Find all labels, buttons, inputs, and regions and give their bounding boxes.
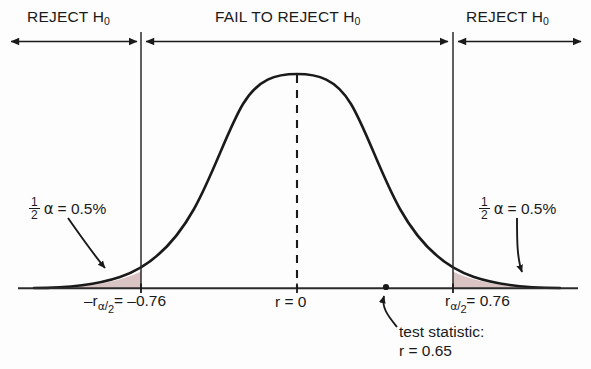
distribution-diagram [0,0,591,369]
left-alpha-half-fraction: 1 2 [29,196,40,221]
region-label-fail-to-reject: FAIL TO REJECT H0 [215,8,361,27]
right-alpha-numerator: 1 [479,196,490,208]
right-alpha-area-label: 1 2 α = 0.5% [479,196,556,221]
left-critical-value-number: = –0.76 [114,292,166,309]
left-alpha-value: = 0.5% [58,200,107,218]
region-label-left-reject-text: REJECT H [27,8,104,25]
figure-canvas: REJECT H0 FAIL TO REJECT H0 REJECT H0 1 … [0,0,591,369]
left-alpha-area-label: 1 2 α = 0.5% [29,196,106,221]
region-label-right-reject: REJECT H0 [466,8,549,27]
left-critical-value-label: –rα/2= –0.76 [84,292,166,313]
left-alpha-pointer-arrow [68,218,105,268]
right-critical-value-number: = 0.76 [466,292,510,309]
left-alpha-symbol: α [44,200,54,218]
right-alpha-denominator: 2 [479,208,490,221]
left-critical-sub-alpha: α [98,300,105,313]
left-critical-sub-two: 2 [108,303,114,315]
region-label-left-reject-subscript: 0 [104,15,110,27]
region-label-left-reject: REJECT H0 [27,8,110,27]
test-statistic-caption: test statistic: [399,323,484,342]
left-critical-value-subscript: α/2 [98,299,114,313]
right-critical-value-label: rα/2= 0.76 [445,292,510,313]
right-critical-value-subscript: α/2 [450,299,466,313]
test-statistic-annotation: test statistic: r = 0.65 [399,323,484,361]
test-statistic-dot [383,284,389,290]
test-statistic-value: r = 0.65 [399,342,484,361]
left-critical-value-symbol: –r [84,292,98,309]
region-label-fail-to-reject-text: FAIL TO REJECT H [215,8,355,25]
region-label-right-reject-text: REJECT H [466,8,543,25]
right-critical-sub-two: 2 [460,303,466,315]
center-value-label: r = 0 [275,293,306,311]
right-alpha-value: = 0.5% [508,200,557,218]
left-alpha-denominator: 2 [29,208,40,221]
right-alpha-pointer-arrow [517,218,522,272]
right-alpha-symbol: α [494,200,504,218]
region-label-fail-to-reject-subscript: 0 [355,15,361,27]
left-alpha-numerator: 1 [29,196,40,208]
test-statistic-pointer-arrow [383,296,397,327]
right-alpha-half-fraction: 1 2 [479,196,490,221]
region-label-right-reject-subscript: 0 [543,15,549,27]
